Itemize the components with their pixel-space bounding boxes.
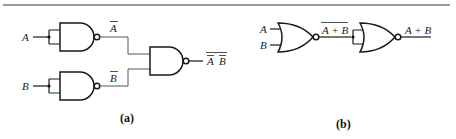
junction-dot-icon (47, 35, 50, 38)
caption-b: (b) (336, 117, 351, 131)
nor-input-label-a: A (259, 23, 267, 35)
input-label-a: A (21, 31, 29, 43)
label-a-not: A (109, 22, 117, 34)
output-label-a: A (206, 55, 214, 67)
output-label-b: B (219, 55, 226, 67)
inversion-bubble-icon (94, 83, 100, 89)
junction-dot-icon (47, 84, 50, 87)
logic-gate-diagram: A B A B A B (a) A (0, 0, 456, 139)
inversion-bubble-icon (183, 58, 189, 64)
inversion-bubble-icon (94, 34, 100, 40)
input-label-b: B (22, 80, 29, 92)
panel-b: A B A + B A + B (b) (259, 23, 431, 132)
label-not-a-plus-b: A + B (321, 24, 348, 36)
output-label-a-plus-b: A + B (404, 24, 431, 36)
nand-gate-output (150, 47, 203, 75)
panel-a: A B A B A B (a) (21, 22, 227, 126)
nand-gate-b-inverter (33, 72, 100, 100)
nor-input-label-b: B (260, 39, 267, 51)
nand-gate-a-inverter (33, 23, 100, 51)
inversion-bubble-icon (395, 34, 401, 40)
junction-dot-icon (351, 35, 354, 38)
caption-a: (a) (120, 111, 134, 125)
inversion-bubble-icon (313, 34, 319, 40)
label-b-not: B (110, 72, 117, 84)
